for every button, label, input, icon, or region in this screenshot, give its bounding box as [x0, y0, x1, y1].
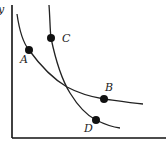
indifference-curve-ab — [17, 14, 143, 104]
indifference-curve-diagram: y A B C D — [0, 0, 166, 147]
point-d-label: D — [83, 122, 93, 135]
point-d — [92, 116, 100, 124]
point-a-label: A — [19, 53, 28, 66]
point-c — [47, 34, 55, 42]
point-b-label: B — [104, 81, 113, 94]
point-c-label: C — [62, 32, 71, 45]
point-b — [100, 95, 108, 103]
y-axis-label: y — [0, 3, 5, 16]
indifference-curve-cd — [49, 5, 120, 128]
